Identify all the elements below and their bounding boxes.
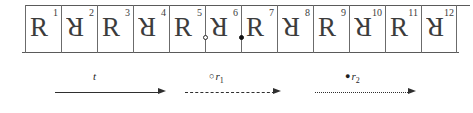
cell-letter: R <box>242 12 268 42</box>
solid-arrow-line <box>55 92 160 93</box>
strip-cell: R 7 <box>241 5 277 53</box>
legend-label-r2: ●r2 <box>345 70 360 87</box>
dotted-arrow-head <box>408 88 416 94</box>
strip-cell: R 8 <box>277 5 313 53</box>
strip-cell: R 1 <box>25 5 61 53</box>
open-circle-icon: ○ <box>209 71 214 81</box>
cell-index: 4 <box>161 8 166 18</box>
cell-letter: R <box>278 12 304 42</box>
dashed-arrow-line <box>185 92 275 93</box>
strip-cell: R 4 <box>133 5 169 53</box>
strip-cell: R 12 <box>421 5 457 53</box>
cell-index: 6 <box>233 8 238 18</box>
solid-arrow-head <box>158 88 166 94</box>
cell-letter: R <box>206 12 232 42</box>
cell-letter: R <box>134 12 160 42</box>
legend-reflection-r1: ○r1 <box>185 70 300 104</box>
legend-label-r1: ○r1 <box>209 70 224 87</box>
strip-cell: R 9 <box>313 5 349 53</box>
strip-cell: R 6 <box>205 5 241 53</box>
cell-letter: R <box>98 12 124 42</box>
cell-index: 3 <box>125 8 130 18</box>
cell-letter: R <box>170 12 196 42</box>
filled-circle-icon: ● <box>345 71 350 81</box>
cell-strip: R 1 R 2 R 3 R 4 R 5 R 6 R 7 R 8 <box>25 5 456 53</box>
cell-index: 1 <box>53 8 58 18</box>
cell-letter: R <box>26 12 52 42</box>
cell-index: 9 <box>341 8 346 18</box>
legend-subscript-2: 2 <box>356 76 360 85</box>
strip-cell: R 2 <box>61 5 97 53</box>
cell-index: 11 <box>408 8 418 18</box>
cell-index: 10 <box>372 8 382 18</box>
cell-index: 8 <box>305 8 310 18</box>
open-circle-marker <box>203 35 208 40</box>
cell-letter: R <box>62 12 88 42</box>
cell-index: 5 <box>197 8 202 18</box>
symmetry-strip-figure: R 1 R 2 R 3 R 4 R 5 R 6 R 7 R 8 <box>0 0 473 113</box>
strip-cell: R 11 <box>385 5 421 53</box>
legend-symbol-t: t <box>93 70 96 82</box>
legend-label-t: t <box>93 70 96 83</box>
legend-reflection-r2: ●r2 <box>315 70 435 104</box>
strip-cell: R 3 <box>97 5 133 53</box>
cell-index: 7 <box>269 8 274 18</box>
filled-circle-marker <box>239 35 244 40</box>
cell-letter: R <box>314 12 340 42</box>
cell-index: 12 <box>444 8 454 18</box>
dashed-arrow-head <box>273 88 281 94</box>
strip-cell: R 10 <box>349 5 385 53</box>
legend-translation: t <box>55 70 175 104</box>
strip-cell: R 5 <box>169 5 205 53</box>
cell-index: 2 <box>89 8 94 18</box>
dotted-arrow-line <box>315 92 410 93</box>
strip-right-edge <box>456 5 457 53</box>
legend-subscript-1: 1 <box>220 76 224 85</box>
